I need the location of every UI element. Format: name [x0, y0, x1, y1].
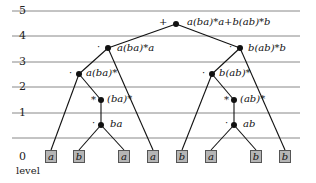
leaf-8: b	[279, 150, 291, 163]
level-axis-label: level	[16, 165, 40, 176]
left-l1-label: ba	[110, 118, 122, 129]
level-2: 2	[19, 80, 26, 93]
level-5: 5	[19, 4, 26, 17]
leaf-4: a	[147, 150, 159, 163]
right-l3-label: b(ab)*	[219, 67, 251, 78]
leaf-6: a	[205, 150, 217, 163]
leaf-7: b	[250, 150, 262, 163]
right-l4-op: ·	[229, 41, 232, 52]
right-l1-label: ab	[243, 118, 255, 129]
level-4: 4	[19, 29, 26, 42]
right-l4-label: b(ab)*b	[248, 42, 286, 53]
leaf-5: b	[176, 150, 188, 163]
left-l2-label: (ba)*	[107, 93, 132, 104]
left-l4-label: a(ba)*a	[117, 42, 154, 53]
right-l2-op: *	[224, 94, 229, 105]
root-label: a(ba)*a+b(ab)*b	[187, 16, 270, 27]
level-3: 3	[19, 55, 26, 68]
level-1: 1	[19, 106, 26, 119]
left-l3-op: ·	[69, 67, 72, 78]
leaf-3: a	[118, 150, 130, 163]
left-l2-op: *	[91, 94, 96, 105]
root-op: +	[159, 16, 167, 27]
left-l4-op: ·	[97, 41, 100, 52]
leaf-1: a	[45, 150, 57, 163]
leaf-2: b	[73, 150, 85, 163]
right-l1-op: ·	[225, 117, 228, 128]
left-l1-op: ·	[92, 117, 95, 128]
right-l2-label: (ab)*	[240, 93, 265, 104]
level-0: 0	[19, 150, 26, 163]
left-l3-label: a(ba)*	[86, 67, 117, 78]
right-l3-op: ·	[202, 67, 205, 78]
